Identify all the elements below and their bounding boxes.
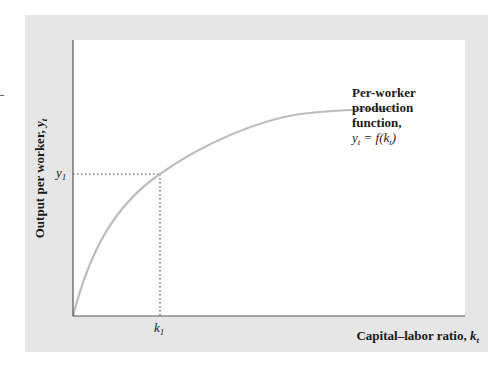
y-axis-label-text: Output per worker, — [33, 127, 48, 238]
y-axis-label-var: y — [33, 121, 48, 127]
y-tick-sub: 1 — [62, 172, 67, 182]
eq-end: ) — [392, 130, 396, 145]
x-tick-sub: 1 — [160, 327, 165, 337]
curve-label-line1: Per-worker — [352, 85, 416, 100]
y-axis-label-sub: t — [40, 118, 50, 121]
eq-mid: = f( — [360, 130, 383, 145]
curve-label-line2: production — [352, 100, 416, 115]
y-tick-y1: y1 — [56, 165, 66, 182]
x-axis-label-text: Capital–labor ratio, — [356, 328, 470, 343]
margin-tick — [0, 95, 4, 96]
curve-label-line3: function, — [352, 115, 416, 130]
production-function-curve — [73, 109, 393, 316]
x-axis-label: Capital–labor ratio, kt — [356, 328, 479, 345]
curve-label: Per-worker production function, yt = f(k… — [352, 85, 416, 150]
x-axis-label-sub: t — [476, 335, 479, 345]
x-tick-k1: k1 — [154, 320, 164, 337]
y-axis-label: Output per worker, yt — [30, 40, 52, 316]
chart-svg — [0, 0, 503, 373]
curve-equation: yt = f(kt) — [352, 130, 416, 150]
